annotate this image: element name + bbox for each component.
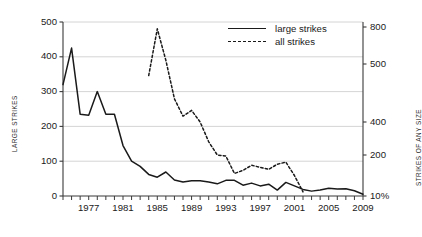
y-left-tick-300: 300 [41,85,57,96]
y-right-tick-3: 500 [370,58,386,69]
legend-swatch-dashed-icon [228,41,266,42]
legend-swatch-solid-icon [228,28,266,29]
legend-label-large-strikes: large strikes [275,23,327,34]
chart-legend: large strikes all strikes [228,22,327,48]
y-left-tick-500: 500 [41,16,57,27]
legend-label-all-strikes: all strikes [275,36,315,47]
strikes-line-chart: LARGE STRIKES STRIKES OF ANY SIZE 010020… [0,0,422,237]
y-left-tick-100: 100 [41,155,57,166]
series-line-all-strikes [149,29,303,192]
legend-item-all-strikes: all strikes [228,35,327,48]
y-right-tick-0: 10% [370,190,389,201]
legend-item-large-strikes: large strikes [228,22,327,35]
y-right-tick-2: 400 [370,116,386,127]
y-axis-right-title: STRIKES OF ANY SIZE [415,109,422,186]
y-right-tick-1: 200 [370,149,386,160]
y-left-tick-0: 0 [52,190,57,201]
x-tick-2009: 2009 [341,202,385,213]
y-left-tick-400: 400 [41,50,57,61]
y-right-tick-4: 800 [370,21,386,32]
y-left-tick-200: 200 [41,120,57,131]
y-axis-left-title: LARGE STRIKES [11,95,18,152]
series-line-large-strikes [63,48,363,194]
